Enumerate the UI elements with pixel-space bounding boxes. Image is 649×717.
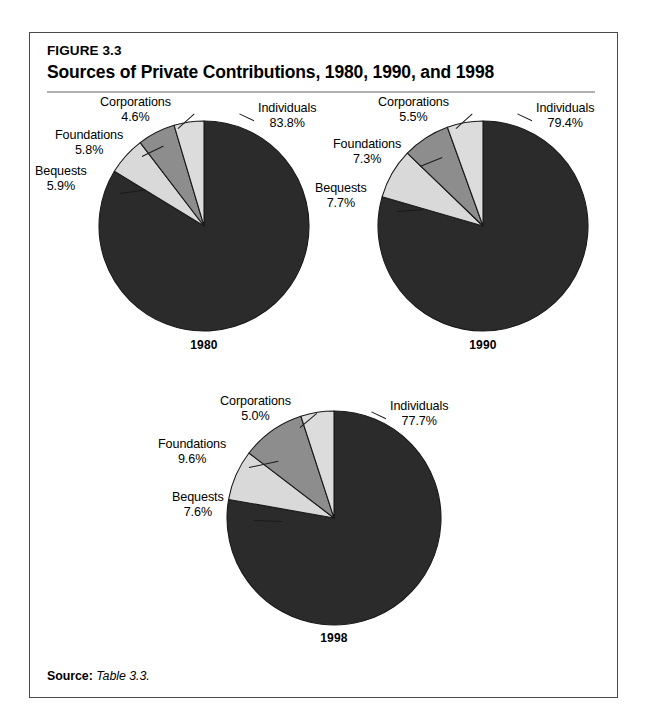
callout-value: 5.8% bbox=[55, 143, 123, 158]
pie-callout-bequests-1990: Bequests7.7% bbox=[315, 181, 367, 211]
pie-year-label-1990: 1990 bbox=[423, 338, 543, 352]
callout-value: 77.7% bbox=[390, 414, 448, 429]
pie-callout-foundations-1980: Foundations5.8% bbox=[55, 128, 123, 158]
callout-value: 5.5% bbox=[378, 110, 449, 125]
pie-svg-1990 bbox=[374, 117, 592, 335]
pie-callout-individuals-1998: Individuals77.7% bbox=[390, 399, 448, 429]
callout-value: 79.4% bbox=[536, 116, 594, 131]
pie-callout-corporations-1998: Corporations5.0% bbox=[220, 394, 291, 424]
pie-callout-bequests-1998: Bequests7.6% bbox=[172, 490, 224, 520]
callout-name: Bequests bbox=[172, 490, 224, 505]
figure-frame: FIGURE 3.3 Sources of Private Contributi… bbox=[29, 32, 618, 698]
callout-value: 7.7% bbox=[315, 196, 367, 211]
pie-chart-1998 bbox=[223, 407, 445, 629]
pie-svg-1998 bbox=[223, 407, 445, 629]
callout-name: Individuals bbox=[258, 101, 316, 116]
callout-name: Corporations bbox=[100, 95, 171, 110]
callout-name: Foundations bbox=[158, 437, 226, 452]
source-note: Source: Table 3.3. bbox=[47, 669, 150, 683]
pie-callout-corporations-1990: Corporations5.5% bbox=[378, 95, 449, 125]
source-value: Table 3.3. bbox=[96, 669, 149, 683]
pie-chart-1980 bbox=[95, 117, 313, 335]
pie-callout-foundations-1990: Foundations7.3% bbox=[333, 137, 401, 167]
callout-value: 4.6% bbox=[100, 110, 171, 125]
pie-callout-bequests-1980: Bequests5.9% bbox=[35, 164, 87, 194]
callout-name: Corporations bbox=[378, 95, 449, 110]
callout-name: Bequests bbox=[35, 164, 87, 179]
callout-name: Foundations bbox=[55, 128, 123, 143]
callout-name: Bequests bbox=[315, 181, 367, 196]
pie-year-label-1980: 1980 bbox=[144, 338, 264, 352]
callout-name: Foundations bbox=[333, 137, 401, 152]
callout-value: 7.3% bbox=[333, 152, 401, 167]
callout-value: 7.6% bbox=[172, 505, 224, 520]
callout-value: 5.0% bbox=[220, 409, 291, 424]
callout-value: 83.8% bbox=[258, 116, 316, 131]
pie-svg-1980 bbox=[95, 117, 313, 335]
pie-callout-foundations-1998: Foundations9.6% bbox=[158, 437, 226, 467]
callout-name: Corporations bbox=[220, 394, 291, 409]
pie-callout-individuals-1990: Individuals79.4% bbox=[536, 101, 594, 131]
pie-chart-1990 bbox=[374, 117, 592, 335]
charts-area: 1980Individuals83.8%Bequests5.9%Foundati… bbox=[30, 33, 619, 699]
pie-callout-corporations-1980: Corporations4.6% bbox=[100, 95, 171, 125]
pie-callout-individuals-1980: Individuals83.8% bbox=[258, 101, 316, 131]
callout-value: 9.6% bbox=[158, 452, 226, 467]
callout-name: Individuals bbox=[536, 101, 594, 116]
callout-name: Individuals bbox=[390, 399, 448, 414]
source-label: Source: bbox=[47, 669, 93, 683]
pie-year-label-1998: 1998 bbox=[274, 631, 394, 645]
callout-value: 5.9% bbox=[35, 179, 87, 194]
